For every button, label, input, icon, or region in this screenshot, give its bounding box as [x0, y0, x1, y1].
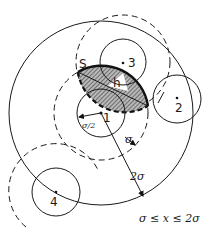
half-sigma-label: σ/2 — [82, 121, 95, 130]
hard-sphere-diagram: S 3 h 2 1 4 σ/2 σ 2σ σ ≤ x ≤ 2σ — [0, 0, 209, 236]
particle-2-label: 2 — [175, 101, 183, 115]
height-h-label: h — [113, 76, 121, 90]
region-s-label: S — [79, 57, 87, 71]
half-sigma-radius-line — [79, 113, 101, 117]
particle-4-center-dot — [55, 191, 58, 194]
two-sigma-label: 2σ — [129, 170, 145, 183]
particle-2-center-dot — [176, 97, 179, 100]
particle-3-label: 3 — [128, 56, 136, 70]
sigma-label: σ — [125, 133, 133, 146]
sigma-shell-particle-4 — [9, 144, 98, 227]
particle-2-tick — [158, 92, 164, 103]
particle-1-label: 1 — [103, 111, 111, 125]
condition-label: σ ≤ x ≤ 2σ — [139, 212, 200, 225]
particle-4-label: 4 — [50, 195, 58, 209]
particle-3-center-dot — [122, 62, 125, 65]
